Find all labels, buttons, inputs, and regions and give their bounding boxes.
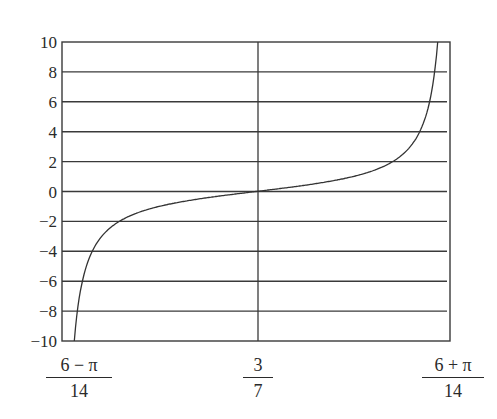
y-tick-label: −6	[39, 272, 57, 291]
x-tick-right-numerator: 6 + π	[422, 356, 484, 378]
y-tick-label: 4	[49, 123, 58, 142]
y-tick-label: 2	[49, 153, 58, 172]
y-tick-label: −10	[30, 332, 57, 351]
x-tick-label-right: 6 + π 14	[422, 356, 484, 400]
x-tick-label-left: 6 − π 14	[46, 356, 112, 400]
y-tick-label: 6	[49, 93, 58, 112]
x-tick-center-denominator: 7	[243, 378, 273, 400]
x-tick-center-numerator: 3	[243, 356, 273, 378]
y-tick-label: −2	[39, 212, 57, 231]
x-tick-left-numerator: 6 − π	[46, 356, 112, 378]
y-tick-label: 10	[40, 33, 57, 52]
y-tick-label: −8	[39, 302, 57, 321]
y-tick-label: 0	[49, 183, 58, 202]
y-tick-label: 8	[49, 63, 58, 82]
x-tick-label-center: 3 7	[243, 356, 273, 400]
x-tick-right-denominator: 14	[422, 378, 484, 400]
y-tick-labels: 1086420−2−4−6−8−10	[30, 33, 57, 351]
x-tick-left-denominator: 14	[46, 378, 112, 400]
y-tick-label: −4	[39, 242, 58, 261]
